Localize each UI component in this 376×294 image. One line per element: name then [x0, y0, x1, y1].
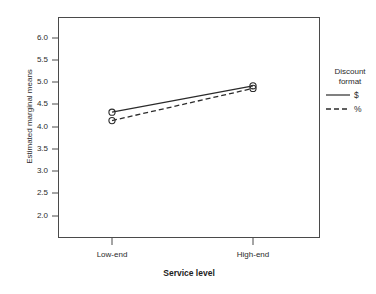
x-axis-title: Service level — [58, 268, 320, 278]
legend-solid-line-icon — [325, 91, 351, 99]
series-percent-line — [112, 88, 253, 120]
legend-dashed-line-icon — [325, 105, 351, 113]
legend-label-dollar: $ — [354, 90, 359, 100]
x-tick-label-high-end: High-end — [223, 250, 283, 259]
y-axis-title-wrapper: Estimated marginal means — [0, 0, 1, 1]
chart-canvas — [0, 0, 376, 294]
chart-page: 6.0 5.5 5.0 4.5 4.0 3.5 3.0 2.5 2.0 Low-… — [0, 0, 376, 294]
y-axis-title: Estimated marginal means — [25, 42, 34, 192]
legend-item-dollar: $ — [325, 88, 375, 101]
legend-title-line-1: Discount — [325, 67, 375, 77]
legend-label-percent: % — [354, 104, 362, 114]
y-axis-ticks — [52, 38, 58, 216]
series-dollar — [109, 83, 256, 116]
y-tick-label-2.0: 2.0 — [26, 211, 48, 220]
x-tick-label-low-end: Low-end — [82, 250, 142, 259]
series-dollar-line — [112, 86, 253, 112]
legend: Discount format $ % — [325, 67, 375, 115]
series-percent — [109, 85, 256, 123]
legend-item-percent: % — [325, 102, 375, 115]
legend-title-line-2: format — [325, 77, 375, 87]
legend-title: Discount format — [325, 67, 375, 87]
x-axis-ticks — [112, 238, 253, 245]
